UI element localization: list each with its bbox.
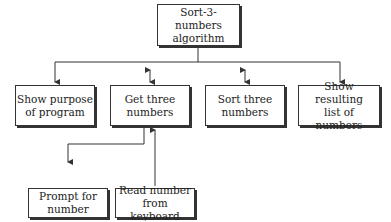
arrow-to-prompt xyxy=(68,128,144,162)
box-get-three: Get three numbers xyxy=(110,85,190,126)
box-show-purpose: Show purpose of program xyxy=(15,85,95,126)
sort-three-label: Sort three numbers xyxy=(218,93,273,119)
prompt-label: Prompt for number xyxy=(39,190,97,216)
box-sort-three: Sort three numbers xyxy=(205,85,285,126)
read-label: Read number from keyboard xyxy=(116,184,194,222)
get-three-label: Get three numbers xyxy=(125,93,176,119)
show-purpose-label: Show purpose of program xyxy=(17,93,93,119)
box-show-resulting: Show resulting list of numbers xyxy=(298,85,380,126)
box-read: Read number from keyboard xyxy=(115,188,195,218)
root-box: Sort-3-numbers algorithm xyxy=(157,4,240,46)
box-prompt: Prompt for number xyxy=(28,188,108,218)
root-label: Sort-3-numbers algorithm xyxy=(158,6,239,45)
show-resulting-label: Show resulting list of numbers xyxy=(299,80,379,132)
